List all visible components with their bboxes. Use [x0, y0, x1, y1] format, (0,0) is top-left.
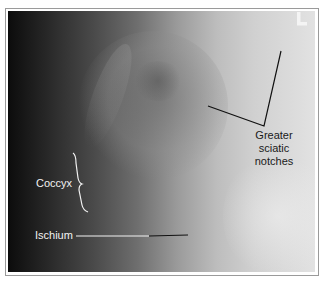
label-line-1: Greater — [239, 129, 309, 142]
ischium-pointer-dark — [149, 235, 188, 236]
label-line-3: notches — [239, 155, 309, 168]
ischium-label: Ischium — [35, 229, 73, 242]
coccyx-label: Coccyx — [36, 177, 72, 190]
sciatic-notch-pointer — [208, 51, 281, 126]
label-line-2: sciatic — [239, 142, 309, 155]
greater-sciatic-notches-label: Greater sciatic notches — [239, 129, 309, 168]
side-marker-l-icon — [297, 12, 307, 26]
coccyx-brace — [73, 153, 88, 212]
